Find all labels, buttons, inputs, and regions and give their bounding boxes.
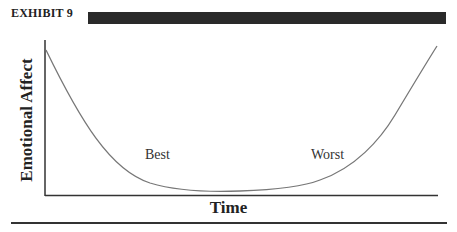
- annotation-best: Best: [145, 147, 170, 163]
- emotion-curve: [46, 46, 437, 191]
- y-axis-label: Emotional Affect: [17, 45, 37, 195]
- bottom-rule: [11, 222, 447, 224]
- annotation-worst: Worst: [311, 147, 344, 163]
- x-axis-label: Time: [0, 198, 457, 218]
